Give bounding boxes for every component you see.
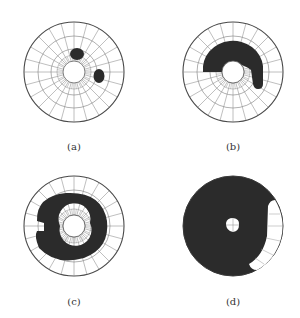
caption-a: (a)	[54, 141, 94, 152]
figure-canvas	[0, 0, 300, 318]
caption-b: (b)	[213, 141, 253, 152]
panel-d	[183, 176, 283, 276]
dark-spot-right	[94, 69, 105, 83]
panel-b	[183, 22, 283, 122]
panel-a	[24, 22, 124, 122]
caption-d: (d)	[213, 296, 253, 307]
dark-spot-upper	[70, 48, 84, 60]
panel-c	[24, 176, 124, 276]
caption-c: (c)	[54, 296, 94, 307]
